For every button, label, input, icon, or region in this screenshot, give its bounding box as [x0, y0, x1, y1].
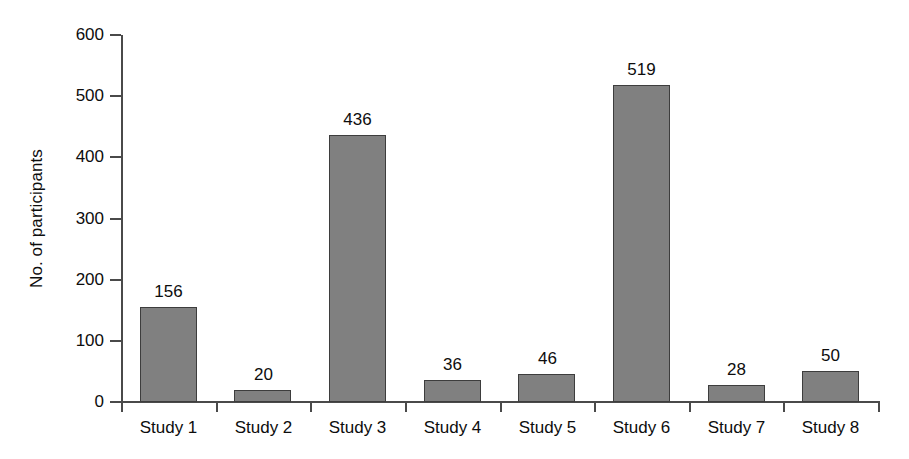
bar: [234, 390, 291, 402]
x-axis-tick: [500, 401, 502, 412]
y-axis-tick-label: 100: [4, 331, 104, 351]
x-axis-tick: [405, 401, 407, 412]
x-axis-tick: [689, 401, 691, 412]
bar-value-label: 436: [310, 110, 405, 130]
bar: [424, 380, 481, 402]
x-axis-category-label: Study 3: [310, 418, 405, 438]
x-axis-category-label: Study 7: [689, 418, 784, 438]
bar-value-label: 50: [783, 346, 878, 366]
x-axis-category-label: Study 8: [783, 418, 878, 438]
x-axis-category-label: Study 5: [500, 418, 595, 438]
bar: [802, 371, 859, 402]
bar: [708, 385, 765, 402]
y-axis-tick: [110, 34, 121, 36]
bar: [329, 135, 386, 402]
y-axis-tick-label: 200: [4, 270, 104, 290]
y-axis-tick-label: 400: [4, 147, 104, 167]
y-axis-tick-label: 500: [4, 86, 104, 106]
x-axis-category-label: Study 6: [594, 418, 689, 438]
bar-value-label: 20: [216, 365, 311, 385]
x-axis-tick: [310, 401, 312, 412]
y-axis-tick-label: 300: [4, 209, 104, 229]
x-axis-category-label: Study 4: [405, 418, 500, 438]
y-axis-tick: [110, 340, 121, 342]
bar: [518, 374, 575, 402]
bar-value-label: 519: [594, 60, 689, 80]
y-axis-tick-label: 0: [4, 392, 104, 412]
bar-value-label: 36: [405, 355, 500, 375]
x-axis-category-label: Study 2: [216, 418, 311, 438]
bar-value-label: 46: [500, 349, 595, 369]
bar-chart: No. of participants 0100200300400500600 …: [0, 0, 909, 459]
x-axis-category-label: Study 1: [121, 418, 216, 438]
x-axis-tick: [216, 401, 218, 412]
bar: [140, 307, 197, 402]
y-axis-tick: [110, 95, 121, 97]
y-axis-tick: [110, 279, 121, 281]
y-axis-line: [121, 35, 123, 403]
bar: [613, 85, 670, 402]
y-axis-tick: [110, 156, 121, 158]
x-axis-tick: [878, 401, 880, 412]
y-axis-tick: [110, 401, 121, 403]
y-axis-tick: [110, 218, 121, 220]
x-axis-tick: [783, 401, 785, 412]
y-axis-tick-label: 600: [4, 25, 104, 45]
bar-value-label: 156: [121, 282, 216, 302]
x-axis-tick: [594, 401, 596, 412]
x-axis-tick: [121, 401, 123, 412]
bar-value-label: 28: [689, 360, 784, 380]
